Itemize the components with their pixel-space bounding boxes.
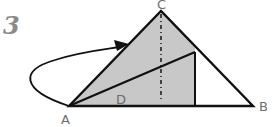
- label-a: A: [61, 112, 70, 127]
- fold-diagram: C A B D: [0, 0, 272, 127]
- label-c: C: [157, 0, 166, 12]
- label-b: B: [259, 99, 268, 114]
- label-d: D: [116, 92, 126, 107]
